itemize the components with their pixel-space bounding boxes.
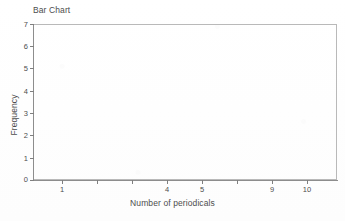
y-axis-tick-label: 5	[14, 65, 28, 72]
bars-layer	[68, 50, 345, 205]
bar-chart-figure: Bar Chart 7 6 5 4 3 2 1 0 1 4 5 9 10 Num…	[0, 0, 345, 221]
x-axis-tick-mark	[237, 180, 238, 184]
y-axis-tick-mark	[30, 113, 34, 114]
y-axis-tick-mark	[30, 180, 34, 181]
x-axis-title: Number of periodicals	[0, 198, 345, 209]
y-axis-tick-mark	[30, 46, 34, 47]
y-axis-tick-label: 0	[14, 176, 28, 183]
x-axis-tick-mark	[272, 180, 273, 184]
x-axis-tick-label: 10	[297, 185, 317, 194]
y-axis-tick-label: 7	[14, 21, 28, 28]
x-axis-tick-mark	[132, 180, 133, 184]
x-axis-tick-mark	[167, 180, 168, 184]
y-axis-tick-mark	[30, 135, 34, 136]
y-axis-tick-mark	[30, 158, 34, 159]
y-axis-tick-mark	[30, 24, 34, 25]
x-axis-tick-label: 5	[192, 185, 212, 194]
x-axis-tick-mark	[97, 180, 98, 184]
y-axis-tick-label: 1	[14, 155, 28, 162]
chart-title: Bar Chart	[33, 5, 70, 16]
x-axis-tick-label: 9	[262, 185, 282, 194]
y-axis-tick-mark	[30, 91, 34, 92]
y-axis-title: Frequency	[9, 75, 19, 155]
x-axis-line	[33, 180, 338, 181]
x-axis-tick-mark	[307, 180, 308, 184]
y-axis-tick-label: 6	[14, 43, 28, 50]
x-axis-tick-mark	[62, 180, 63, 184]
x-axis-tick-mark	[202, 180, 203, 184]
x-axis-tick-label: 1	[52, 185, 72, 194]
y-axis-tick-mark	[30, 68, 34, 69]
x-axis-tick-label: 4	[157, 185, 177, 194]
plot-area-frame	[33, 24, 337, 180]
